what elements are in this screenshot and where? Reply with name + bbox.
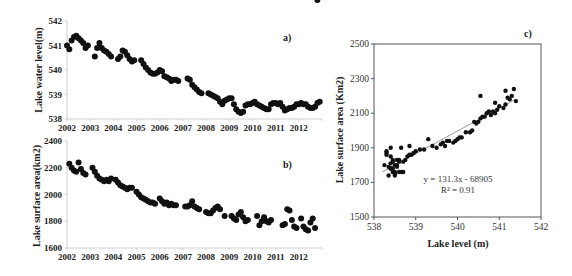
x-tick-label: 2009 (220, 252, 239, 262)
y-tick-label: 2300 (350, 74, 369, 84)
data-point (152, 201, 158, 207)
panel-b-y-label: Lake surface area(km2) (31, 145, 43, 247)
data-point (497, 104, 501, 108)
data-point (399, 146, 403, 150)
x-tick-label: 2010 (243, 252, 262, 262)
x-tick-label: 2004 (104, 252, 123, 262)
data-point (117, 54, 123, 60)
data-point (443, 144, 447, 148)
data-point (514, 99, 518, 103)
y-tick-label: 2100 (350, 108, 369, 118)
x-tick-label: 542 (534, 222, 549, 232)
data-point (418, 147, 422, 151)
data-point (434, 146, 438, 150)
data-point (92, 54, 98, 60)
data-point (382, 163, 386, 167)
panel-c-r-squared: R² = 0.91 (441, 185, 475, 195)
panel-a-x-ticks: 2002200320042005200620072008200920102011… (58, 119, 322, 133)
x-tick-label: 540 (450, 222, 465, 232)
panel-c-y-label: Lake surface area (Km2) (334, 77, 346, 184)
y-tick-label: 1700 (350, 177, 369, 187)
x-tick-label: 2006 (151, 252, 170, 262)
x-tick-label: 2008 (197, 123, 216, 133)
y-tick-label: 539 (49, 90, 63, 100)
data-point (414, 149, 418, 153)
x-tick-label: 2003 (81, 123, 100, 133)
y-tick-label: 1500 (350, 212, 369, 222)
data-point (175, 78, 181, 84)
panel-b-y-ticks: 16001800200022002400 (44, 136, 67, 253)
panel-a-label: a) (283, 32, 291, 44)
y-tick-label: 541 (49, 41, 63, 51)
data-point (173, 202, 179, 208)
x-tick-label: 2005 (128, 252, 147, 262)
data-point (510, 94, 514, 98)
y-tick-label: 1900 (350, 143, 369, 153)
data-point (240, 109, 246, 115)
data-point (229, 95, 235, 101)
data-point (407, 144, 411, 148)
data-point (386, 173, 390, 177)
x-tick-label: 2002 (58, 123, 77, 133)
data-point (470, 128, 474, 132)
data-point (478, 94, 482, 98)
panel-c: 150017001900210023002500 538539540541542… (334, 28, 548, 250)
panel-c-label: c) (524, 28, 532, 40)
panel-a: 538539540541542 200220032004200520062007… (33, 16, 323, 133)
panel-c-y-ticks: 150017001900210023002500 (350, 39, 374, 222)
x-tick-label: 2007 (174, 123, 193, 133)
data-point (83, 171, 89, 177)
data-point (305, 228, 311, 234)
data-point (222, 213, 228, 219)
data-point (254, 213, 260, 219)
x-tick-label: 541 (492, 222, 507, 232)
data-point (217, 206, 223, 212)
data-point (85, 43, 91, 49)
x-tick-label: 2011 (267, 252, 285, 262)
data-point (289, 217, 295, 223)
data-point (395, 163, 399, 167)
data-point (196, 206, 202, 212)
data-point (503, 102, 507, 106)
data-point (389, 154, 393, 158)
x-tick-label: 2011 (267, 123, 285, 133)
data-point (131, 57, 137, 63)
panel-c-x-ticks: 538539540541542 (367, 217, 549, 232)
x-tick-label: 2007 (174, 252, 193, 262)
data-point (129, 185, 135, 191)
x-tick-label: 2002 (58, 252, 77, 262)
x-tick-label: 2012 (290, 123, 309, 133)
data-point (66, 46, 72, 52)
x-tick-label: 2004 (104, 123, 123, 133)
x-tick-label: 2012 (290, 252, 309, 262)
data-point (310, 216, 316, 222)
data-point (294, 225, 300, 231)
panel-b-label: b) (283, 159, 292, 171)
data-point (282, 221, 288, 227)
data-point (189, 198, 195, 204)
y-tick-label: 542 (49, 16, 63, 26)
data-point (397, 170, 401, 174)
x-tick-label: 2009 (220, 123, 239, 133)
data-point (503, 89, 507, 93)
y-tick-label: 2200 (44, 163, 63, 173)
y-tick-label: 2000 (44, 190, 63, 200)
data-point (233, 217, 239, 223)
data-point (108, 54, 114, 60)
data-point (384, 149, 388, 153)
data-point (447, 139, 451, 143)
y-tick-label: 540 (49, 65, 63, 75)
y-tick-label: 2500 (350, 39, 369, 49)
panel-a-y-ticks: 538539540541542 (49, 16, 68, 124)
data-point (287, 208, 293, 214)
x-tick-label: 2006 (151, 123, 170, 133)
data-point (198, 90, 204, 96)
data-point (459, 135, 463, 139)
data-point (76, 159, 82, 165)
x-tick-label: 539 (409, 222, 424, 232)
y-tick-label: 1800 (44, 216, 63, 226)
x-tick-label: 2008 (197, 252, 216, 262)
figure-canvas: 538539540541542 200220032004200520062007… (0, 0, 572, 276)
y-tick-label: 2400 (44, 136, 63, 146)
data-point (426, 137, 430, 141)
